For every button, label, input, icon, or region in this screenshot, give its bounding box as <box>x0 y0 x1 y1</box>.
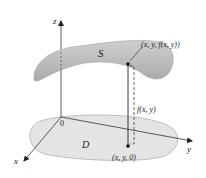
region-d <box>30 115 178 161</box>
surface-label: S <box>98 47 104 59</box>
region-label: D <box>81 139 90 150</box>
surface-over-region-diagram: z x y 0 S D (x, y, f(x, y)) (x, y, 0) f(… <box>0 0 206 178</box>
origin-label: 0 <box>60 119 64 128</box>
x-axis-label: x <box>13 156 18 166</box>
region-point-label: (x, y, 0) <box>112 153 136 162</box>
z-axis-label: z <box>52 16 57 26</box>
y-axis-label: y <box>186 144 191 154</box>
diagram-canvas: z x y 0 S D (x, y, f(x, y)) (x, y, 0) f(… <box>0 0 206 178</box>
surface-point <box>126 62 130 66</box>
region-point <box>126 144 130 148</box>
surface-point-label: (x, y, f(x, y)) <box>141 40 180 49</box>
height-label: f(x, y) <box>137 105 156 114</box>
